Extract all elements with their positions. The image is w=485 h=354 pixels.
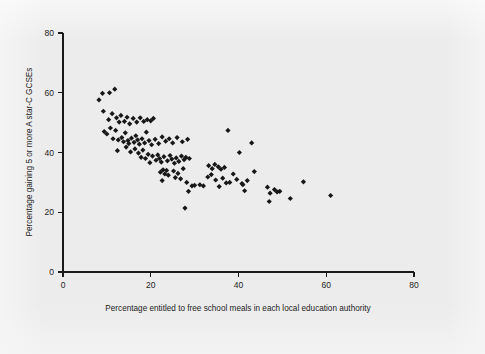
- data-point: [170, 140, 175, 145]
- y-tick-label: 40: [45, 148, 55, 158]
- x-tick-label: 60: [322, 280, 332, 290]
- data-point: [184, 180, 189, 185]
- data-point: [147, 160, 152, 165]
- x-tick-label: 0: [61, 280, 66, 290]
- data-point: [115, 148, 120, 153]
- data-point: [139, 136, 144, 141]
- data-point: [242, 188, 247, 193]
- data-point: [160, 178, 165, 183]
- data-point: [138, 155, 143, 160]
- data-point: [180, 139, 185, 144]
- data-points-layer: [96, 87, 333, 211]
- data-point: [175, 171, 180, 176]
- data-point: [231, 171, 236, 176]
- data-point: [113, 128, 118, 133]
- data-point: [127, 121, 132, 126]
- data-point: [110, 111, 115, 116]
- data-point: [156, 141, 161, 146]
- data-point: [174, 135, 179, 140]
- data-point: [110, 136, 115, 141]
- data-point: [225, 128, 230, 133]
- data-point: [107, 90, 112, 95]
- data-point: [100, 91, 105, 96]
- data-point: [132, 146, 137, 151]
- x-tick-label: 40: [234, 280, 244, 290]
- data-point: [128, 149, 133, 154]
- data-point: [153, 137, 158, 142]
- data-point: [185, 137, 190, 142]
- data-point: [249, 140, 254, 145]
- data-point: [136, 150, 141, 155]
- data-point: [220, 176, 225, 181]
- data-point: [173, 175, 178, 180]
- x-tick-label: 80: [409, 280, 419, 290]
- data-point: [118, 113, 123, 118]
- data-point: [142, 140, 147, 145]
- data-point: [112, 87, 117, 92]
- data-point: [149, 142, 154, 147]
- data-point: [182, 205, 187, 210]
- data-point: [328, 193, 333, 198]
- data-point: [213, 177, 218, 182]
- data-point: [140, 148, 145, 153]
- y-tick-label: 60: [45, 88, 55, 98]
- y-tick-label: 20: [45, 207, 55, 217]
- y-tick-label: 0: [49, 267, 54, 277]
- data-point: [237, 150, 242, 155]
- data-point: [245, 178, 250, 183]
- data-point: [267, 199, 272, 204]
- data-point: [96, 97, 101, 102]
- data-point: [160, 134, 165, 139]
- data-point: [227, 180, 232, 185]
- data-point: [144, 130, 149, 135]
- data-point: [134, 119, 139, 124]
- data-point: [146, 138, 151, 143]
- figure-page: 020406080 020406080 Percentage entitled …: [0, 0, 485, 354]
- data-point: [101, 109, 106, 114]
- data-point: [106, 117, 111, 122]
- scatter-plot: 020406080 020406080 Percentage entitled …: [0, 0, 485, 354]
- data-point: [186, 189, 191, 194]
- data-point: [288, 196, 293, 201]
- data-point: [217, 184, 222, 189]
- x-axis-title: Percentage entitled to free school meals…: [105, 304, 371, 313]
- data-point: [301, 179, 306, 184]
- data-point: [123, 130, 128, 135]
- data-point: [143, 156, 148, 161]
- x-tick-label: 20: [146, 280, 156, 290]
- data-point: [131, 116, 136, 121]
- y-axis-title: Percentage gaining 5 or more A star-C GC…: [25, 68, 34, 237]
- data-point: [265, 185, 270, 190]
- data-point: [181, 166, 186, 171]
- data-point: [117, 119, 122, 124]
- data-point: [178, 176, 183, 181]
- x-axis-ticks: 020406080: [61, 272, 419, 290]
- y-axis-ticks: 020406080: [45, 28, 63, 277]
- data-point: [108, 125, 113, 130]
- data-point: [114, 115, 119, 120]
- data-point: [252, 169, 257, 174]
- chart-svg: 020406080 020406080 Percentage entitled …: [0, 0, 485, 354]
- data-point: [210, 166, 215, 171]
- data-point: [267, 191, 272, 196]
- data-point: [234, 177, 239, 182]
- data-point: [138, 115, 143, 120]
- data-point: [171, 168, 176, 173]
- data-point: [124, 115, 129, 120]
- data-point: [206, 163, 211, 168]
- data-point: [122, 119, 127, 124]
- y-tick-label: 80: [45, 28, 55, 38]
